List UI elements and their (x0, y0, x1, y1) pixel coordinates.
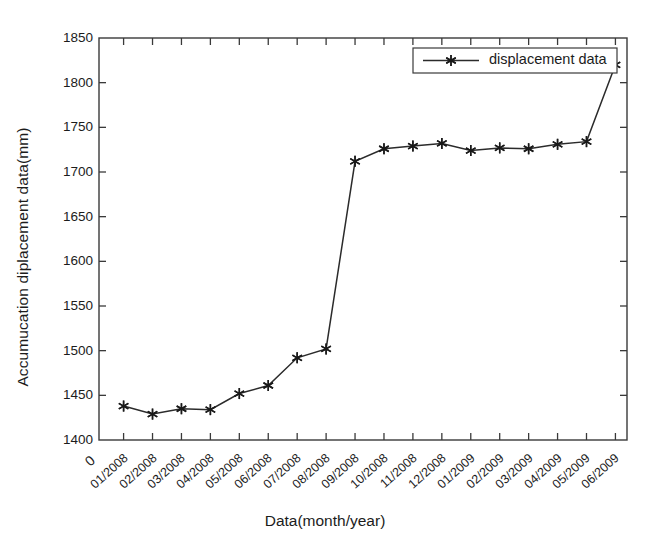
legend-label: displacement data (489, 51, 607, 67)
data-point-marker (119, 401, 129, 412)
data-point-marker (321, 343, 331, 354)
plot-frame (99, 38, 627, 440)
plot-area (0, 0, 650, 553)
data-line (124, 65, 616, 414)
chart-figure: Accumucation diplacement data(mm) Data(m… (0, 0, 650, 553)
data-point-marker (350, 156, 360, 167)
data-point-marker (235, 388, 245, 399)
